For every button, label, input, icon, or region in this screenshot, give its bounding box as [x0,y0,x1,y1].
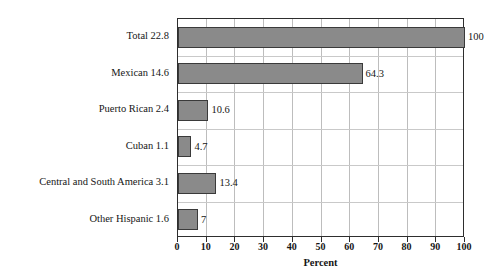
x-tick-label: 0 [175,242,180,252]
plot-area: 10064.310.64.713.47 [177,18,464,237]
bar [178,209,198,230]
bar-chart: Total 22.8Mexican 14.6Puerto Rican 2.4Cu… [0,0,498,280]
x-tick-label: 80 [402,242,412,252]
x-tick-label: 70 [373,242,383,252]
x-axis-title: Percent [177,258,464,269]
bar-band: 7 [178,202,463,239]
bar-band: 100 [178,19,463,56]
bar-value-label: 100 [468,32,484,43]
bar-band: 10.6 [178,92,463,129]
bar [178,100,208,121]
x-tick-label: 100 [457,242,472,252]
bar [178,27,465,48]
category-label: Puerto Rican 2.4 [99,104,169,115]
x-axis-tick-labels: 0102030405060708090100 [177,242,464,256]
category-label: Cuban 1.1 [126,141,169,152]
category-label: Mexican 14.6 [111,68,169,79]
category-label: Central and South America 3.1 [39,177,169,188]
bar [178,173,216,194]
bar-band: 13.4 [178,165,463,202]
x-tick-label: 90 [430,242,440,252]
bar-value-label: 4.7 [194,142,207,153]
x-tick-label: 50 [316,242,326,252]
x-tick-label: 10 [201,242,211,252]
x-tick-label: 60 [344,242,354,252]
x-tick-label: 40 [287,242,297,252]
category-label: Total 22.8 [127,31,169,42]
x-tick-label: 30 [258,242,268,252]
bar-band: 64.3 [178,56,463,93]
x-tick-label: 20 [229,242,239,252]
category-axis-labels: Total 22.8Mexican 14.6Puerto Rican 2.4Cu… [0,18,173,237]
bar-band: 4.7 [178,129,463,166]
bar-value-label: 7 [201,215,206,226]
bar-value-label: 13.4 [219,178,237,189]
bar-value-label: 64.3 [366,69,384,80]
bar [178,136,191,157]
bar [178,63,363,84]
category-label: Other Hispanic 1.6 [89,214,169,225]
bar-value-label: 10.6 [211,105,229,116]
